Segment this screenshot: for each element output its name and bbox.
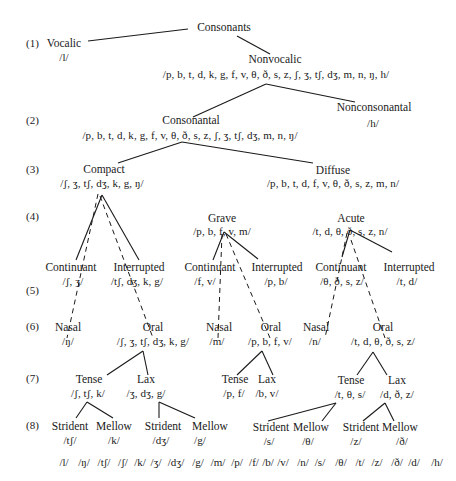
node-at-mellow: Mellow — [293, 421, 329, 434]
node-grave-interrupted: Interrupted — [251, 261, 302, 274]
node-al-mellow-phonemes: /ð/ — [396, 435, 408, 448]
node-grave-phonemes: /p, b, f, v, m/ — [193, 225, 251, 238]
terminal-phoneme: /t/ — [355, 456, 364, 469]
terminal-phoneme: /tʃ/ — [98, 456, 111, 469]
node-grave-nasal: Nasal — [206, 321, 232, 334]
node-compact-oral-phonemes: /ʃ, ʒ, tʃ, dʒ, k, g/ — [117, 335, 189, 348]
edge-consonants-vocalic — [88, 29, 188, 41]
node-acute-tense: Tense — [338, 374, 365, 387]
node-compact-phonemes: /ʃ, ʒ, tʃ, dʒ, k, g, ŋ/ — [60, 177, 144, 190]
node-compact-tense: Tense — [76, 373, 103, 386]
node-diffuse-phonemes: /p, b, t, d, f, v, θ, ð, s, z, m, n/ — [267, 177, 399, 190]
edge-cl-mellow — [159, 402, 195, 418]
terminal-phoneme: /l/ — [59, 456, 68, 469]
edge-compact-continuant — [76, 195, 102, 260]
terminal-phoneme: /b/ — [262, 456, 274, 469]
node-acute-tense-phonemes: /t, θ, s/ — [335, 388, 366, 401]
node-grave-oral: Oral — [261, 321, 281, 334]
node-acute-interrupted: Interrupted — [383, 261, 434, 274]
edge-ct-strident — [76, 402, 87, 418]
node-grave: Grave — [208, 212, 236, 225]
node-vocalic-phonemes: /l/ — [59, 51, 68, 64]
node-acute-lax-phonemes: /d, ð, z/ — [380, 388, 414, 401]
terminal-phoneme: /g/ — [192, 456, 204, 469]
terminal-phoneme: /k/ — [134, 456, 146, 469]
node-nonconsonantal: Nonconsonantal — [337, 101, 412, 114]
terminal-phoneme: /ð/ — [391, 456, 403, 469]
edge-grave-oral-lax — [262, 351, 273, 375]
node-grave-oral-phonemes: /p, b, f, v/ — [248, 335, 292, 348]
node-cl-strident-phonemes: /dʒ/ — [153, 434, 170, 447]
terminal-phoneme: /h/ — [431, 456, 443, 469]
node-acute-continuant: Continuant — [315, 261, 366, 274]
node-acute-interrupted-phonemes: /t, d/ — [397, 275, 418, 288]
node-at-mellow-phonemes: /θ/ — [302, 435, 314, 448]
node-compact-continuant: Continuant — [45, 261, 96, 274]
node-ct-mellow: Mellow — [96, 420, 132, 433]
terminal-phoneme: /s/ — [315, 456, 325, 469]
edge-compact-oral-tense — [107, 351, 143, 375]
edge-acute-oral-tense — [357, 352, 373, 375]
edge-nonvocalic-consonantal — [193, 84, 266, 117]
node-acute-nasal: Nasal — [303, 321, 329, 334]
node-nonvocalic: Nonvocalic — [248, 53, 301, 66]
node-acute-oral: Oral — [373, 321, 393, 334]
node-consonantal: Consonantal — [162, 114, 220, 127]
edge-al-mellow — [385, 403, 394, 421]
level-number-2: (2) — [26, 114, 39, 127]
node-acute: Acute — [337, 212, 364, 225]
node-compact-interrupted: Interrupted — [113, 261, 164, 274]
node-diffuse: Diffuse — [316, 164, 350, 177]
terminal-phoneme: /n/ — [297, 456, 309, 469]
terminal-phoneme: /ʒ/ — [151, 456, 162, 469]
node-grave-continuant-phonemes: /f, v/ — [194, 275, 215, 288]
node-compact-continuant-phonemes: /ʃ, ʒ/ — [63, 275, 84, 288]
node-acute-lax: Lax — [388, 374, 406, 387]
level-number-1: (1) — [26, 37, 39, 50]
node-al-mellow: Mellow — [382, 421, 418, 434]
node-compact-interrupted-phonemes: /tʃ, dʒ, k, g/ — [111, 275, 163, 288]
edge-compact-oral-lax — [143, 351, 148, 375]
node-cl-mellow-phonemes: /g/ — [194, 434, 206, 447]
terminal-phoneme: /v/ — [277, 456, 289, 469]
node-compact-nasal-phonemes: /ŋ/ — [62, 335, 74, 348]
node-acute-continuant-phonemes: /θ, ð, s, z/ — [320, 275, 364, 288]
edge-consonantal-diffuse — [182, 142, 313, 163]
node-nonconsonantal-phonemes: /h/ — [367, 117, 379, 130]
level-number-5: (5) — [26, 284, 39, 297]
edge-al-strident — [363, 403, 385, 421]
terminal-phoneme: /f/ — [249, 456, 259, 469]
node-acute-nasal-phonemes: /n/ — [309, 335, 321, 348]
node-ct-mellow-phonemes: /k/ — [108, 434, 120, 447]
node-cl-mellow: Mellow — [192, 420, 228, 433]
node-compact-tense-phonemes: /ʃ, tʃ, k/ — [71, 387, 105, 400]
terminal-phoneme: /p/ — [231, 456, 243, 469]
edge-consonantal-compact — [118, 142, 182, 163]
node-consonants: Consonants — [197, 21, 251, 34]
terminal-phoneme: /θ/ — [335, 456, 346, 469]
node-at-strident-phonemes: /s/ — [264, 435, 275, 448]
terminal-phoneme: /z/ — [372, 456, 383, 469]
node-grave-lax: Lax — [258, 373, 276, 386]
level-number-6: (6) — [26, 320, 39, 333]
terminal-phoneme: /ŋ/ — [78, 456, 90, 469]
edge-grave-oral-tense — [237, 351, 262, 375]
node-at-strident: Strident — [253, 421, 289, 434]
edge-nonvocalic-nonconsonantal — [266, 84, 355, 102]
node-consonantal-phonemes: /p, b, t, d, k, g, f, v, θ, ð, s, z, ʃ, … — [82, 129, 297, 142]
edge-acute-oral-lax — [373, 352, 387, 375]
level-number-7: (7) — [26, 372, 39, 385]
consonant-feature-tree: (1) (2) (3) (4) (5) (6) (7) (8) Consonan… — [0, 0, 456, 481]
node-compact-lax-phonemes: /ʒ, dʒ, g/ — [127, 387, 166, 400]
node-compact: Compact — [83, 163, 125, 176]
node-grave-tense-phonemes: /p, f/ — [223, 387, 244, 400]
node-nonvocalic-phonemes: /p, b, t, d, k, g, f, v, θ, ð, s, z, ʃ, … — [163, 68, 389, 81]
level-number-8: (8) — [26, 419, 39, 432]
edge-consonants-nonvocalic — [237, 36, 270, 54]
node-compact-nasal: Nasal — [55, 321, 81, 334]
terminal-phoneme: /d/ — [408, 456, 420, 469]
edge-ct-mellow — [87, 402, 113, 418]
node-grave-nasal-phonemes: /m/ — [210, 335, 225, 348]
node-al-strident: Strident — [343, 421, 379, 434]
node-compact-oral: Oral — [143, 321, 163, 334]
